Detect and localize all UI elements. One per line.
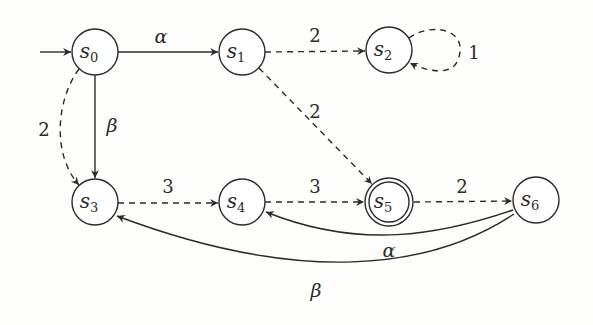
state-s3: s3 (72, 179, 118, 225)
label-s1-s2: 2 (309, 25, 320, 46)
edge-s1-s2 (265, 51, 365, 52)
edge-s0-s3-dashed (60, 69, 79, 185)
label-s0-s1: α (155, 25, 168, 47)
state-s5-accepting: s5 (365, 178, 413, 226)
state-label: s (227, 189, 237, 213)
state-s1: s1 (219, 29, 265, 75)
label-s0-s3-dashed: 2 (38, 119, 49, 140)
label-s3-s4: 3 (162, 176, 173, 197)
label-s6-s4-alpha: α (383, 239, 396, 261)
edge-s1-s5 (259, 68, 372, 184)
state-diagram: α β 2 2 2 1 3 3 2 α β s0 s1 s2 s3 s4 s5 … (0, 0, 593, 325)
state-label: s (521, 187, 531, 211)
edge-s2-loop (409, 29, 460, 70)
state-label: s (374, 37, 384, 61)
state-s0: s0 (72, 29, 118, 75)
state-label: s (80, 39, 90, 63)
state-s6: s6 (513, 177, 559, 223)
edge-s6-s3-beta (117, 214, 514, 262)
state-subscript: 0 (90, 50, 98, 65)
state-subscript: 4 (237, 200, 245, 215)
edge-s5-s6 (414, 201, 512, 202)
label-s6-s3-beta: β (310, 279, 322, 301)
state-subscript: 6 (531, 198, 539, 213)
state-label: s (80, 189, 90, 213)
state-subscript: 5 (384, 200, 392, 215)
label-s4-s5: 3 (309, 176, 320, 197)
state-subscript: 2 (384, 48, 392, 63)
label-s5-s6: 2 (456, 176, 467, 197)
label-s1-s5: 2 (309, 101, 320, 122)
state-s2: s2 (366, 27, 412, 73)
state-subscript: 1 (237, 50, 245, 65)
state-s4: s4 (219, 179, 265, 225)
state-label: s (227, 39, 237, 63)
state-label: s (374, 189, 384, 213)
label-s2-loop: 1 (468, 42, 479, 63)
state-subscript: 3 (90, 200, 98, 215)
label-s0-s3-beta: β (106, 114, 118, 136)
